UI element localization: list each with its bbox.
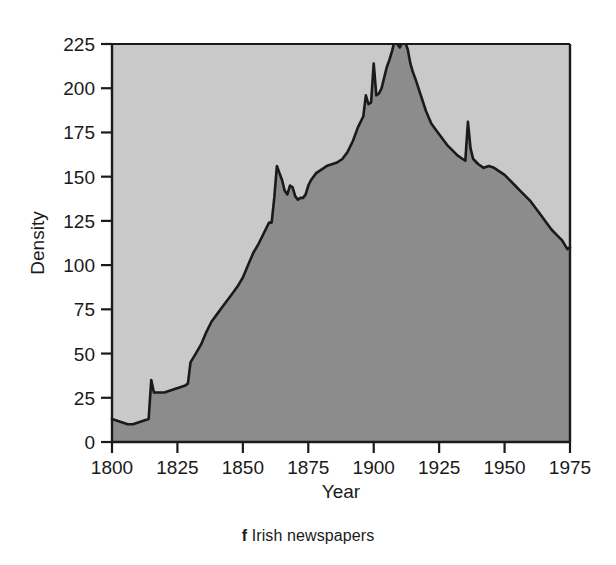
y-tick-label: 50 bbox=[74, 344, 95, 365]
y-axis-ticks: 0255075100125150175200225 bbox=[63, 34, 112, 453]
y-tick-label: 225 bbox=[63, 34, 95, 55]
panel-caption: f Irish newspapers bbox=[0, 527, 616, 545]
y-axis-title: Density bbox=[27, 211, 48, 275]
x-tick-label: 1950 bbox=[483, 457, 525, 478]
x-tick-label: 1975 bbox=[549, 457, 591, 478]
y-tick-label: 0 bbox=[84, 432, 95, 453]
x-tick-label: 1900 bbox=[353, 457, 395, 478]
density-area-chart: 18001825185018751900192519501975 0255075… bbox=[0, 0, 616, 565]
y-tick-label: 25 bbox=[74, 388, 95, 409]
panel-caption-text: Irish newspapers bbox=[252, 527, 375, 544]
x-axis-ticks: 18001825185018751900192519501975 bbox=[91, 442, 591, 478]
y-tick-label: 100 bbox=[63, 255, 95, 276]
figure-panel-f: 18001825185018751900192519501975 0255075… bbox=[0, 0, 616, 565]
x-tick-label: 1875 bbox=[287, 457, 329, 478]
y-tick-label: 75 bbox=[74, 299, 95, 320]
x-tick-label: 1800 bbox=[91, 457, 133, 478]
x-tick-label: 1850 bbox=[222, 457, 264, 478]
y-tick-label: 175 bbox=[63, 122, 95, 143]
y-tick-label: 125 bbox=[63, 211, 95, 232]
y-tick-label: 150 bbox=[63, 167, 95, 188]
x-tick-label: 1825 bbox=[156, 457, 198, 478]
y-tick-label: 200 bbox=[63, 78, 95, 99]
x-axis-title: Year bbox=[322, 481, 361, 502]
panel-letter: f bbox=[242, 527, 247, 544]
x-tick-label: 1925 bbox=[418, 457, 460, 478]
